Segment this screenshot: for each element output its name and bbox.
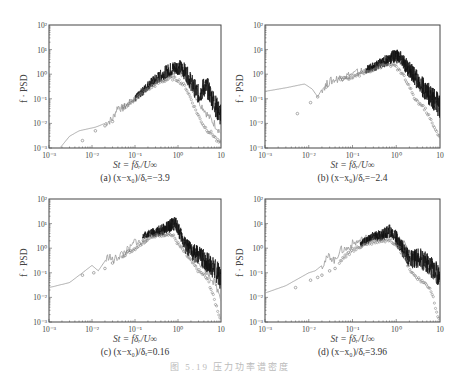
x-tick-label: 10⁰: [391, 325, 402, 334]
plot-panel-d: 10⁻³10⁻²10⁻¹10⁰1010⁻³10⁻²10⁻¹10⁰10¹10²: [0, 0, 460, 378]
y-tick-label: 10²: [253, 195, 264, 204]
y-tick-label: 10⁰: [253, 244, 264, 253]
x-axis-label: St = fδᵣ/U∞: [238, 334, 460, 344]
axis-ticks: [265, 200, 438, 322]
plot-data: [265, 225, 441, 324]
circle-markers: [294, 238, 441, 324]
y-tick-label: 10⁻¹: [249, 269, 263, 278]
y-tick-label: 10⁻²: [249, 293, 264, 302]
experiment-signal: [360, 225, 440, 285]
x-tick-label: 10: [436, 325, 444, 334]
panel-caption-d: (d) (x−x₀)/δᵣ=3.96: [238, 347, 460, 357]
y-tick-label: 10¹: [253, 220, 263, 229]
y-tick-label: 10⁻³: [249, 318, 264, 327]
x-tick-label: 10⁻²: [302, 325, 317, 334]
figure-caption: 图 5.19 压力功率谱密度: [0, 360, 460, 373]
y-axis-label: f · PSD: [235, 248, 245, 277]
x-tick-label: 10⁻¹: [346, 325, 360, 334]
